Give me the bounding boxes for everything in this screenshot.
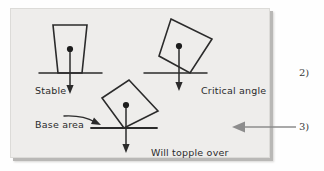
annotation-marker-3: 3) — [299, 121, 309, 132]
screenshot-root: Stable Critical angle Base area Will top… — [0, 0, 324, 171]
centre-of-gravity-critical — [176, 43, 182, 49]
label-base-area: Base area — [35, 119, 84, 130]
block-outline-critical — [159, 19, 212, 73]
annotation-marker-2: 2) — [299, 67, 309, 78]
weight-arrowhead-toppling — [122, 144, 129, 153]
weight-arrowhead-critical — [175, 82, 182, 91]
label-stable: Stable — [35, 85, 66, 96]
annotation-pointer-arrow-icon — [228, 118, 298, 138]
centre-of-gravity-stable — [67, 46, 73, 52]
figure-toppling — [91, 80, 158, 153]
label-will-topple-over: Will topple over — [151, 147, 229, 158]
label-critical-angle: Critical angle — [201, 85, 266, 96]
weight-arrowhead-stable — [66, 85, 73, 94]
centre-of-gravity-toppling — [123, 102, 129, 108]
figure-critical — [144, 19, 212, 91]
block-outline-toppling — [102, 80, 158, 128]
figure-stable — [39, 25, 102, 94]
